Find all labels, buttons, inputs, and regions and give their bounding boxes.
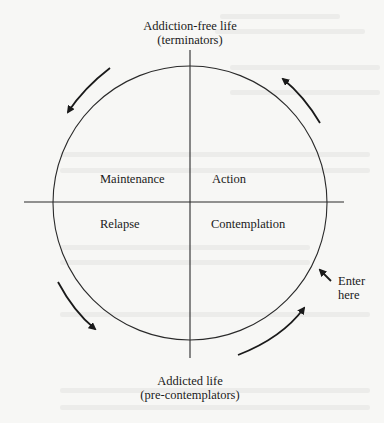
arrow-top-right-icon [283,79,320,123]
bottom-pole-label: Addicted life (pre-contemplators) [140,374,239,402]
cycle-diagram [0,0,384,423]
entry-label: Enter here [338,274,365,302]
top-pole-line1: Addiction-free life [143,19,236,33]
bottom-pole-line1: Addicted life [140,374,239,388]
quadrant-action: Action [212,172,246,186]
bottom-pole-line2: (pre-contemplators) [140,388,239,402]
entry-line2: here [338,288,365,302]
enter-arrow-icon [320,270,331,281]
entry-line1: Enter [338,274,365,288]
quadrant-contemplation: Contemplation [211,217,285,231]
arrow-bottom-left-icon [58,282,95,329]
arrow-top-left-icon [68,68,110,112]
arrow-bottom-right-icon [238,308,304,355]
top-pole-label: Addiction-free life (terminators) [143,19,236,47]
quadrant-maintenance: Maintenance [100,172,165,186]
quadrant-relapse: Relapse [100,217,140,231]
top-pole-line2: (terminators) [143,33,236,47]
